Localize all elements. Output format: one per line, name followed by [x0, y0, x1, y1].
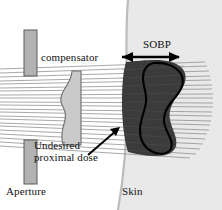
proton-therapy-figure: compensator SOBP Undesiredproximal dose … — [0, 0, 222, 210]
figure-canvas — [0, 0, 222, 210]
skin-label: Skin — [122, 186, 143, 198]
compensator-shape — [61, 71, 81, 145]
compensator-label: compensator — [41, 52, 98, 64]
undesired-dose-line-1: Undesired — [34, 139, 80, 151]
undesired-proximal-dose-label: Undesiredproximal dose — [34, 140, 98, 163]
sobp-label: SOBP — [143, 39, 171, 51]
aperture-upper-block — [24, 30, 37, 76]
aperture-label: Aperture — [6, 186, 46, 198]
undesired-dose-line-2: proximal dose — [34, 151, 98, 163]
